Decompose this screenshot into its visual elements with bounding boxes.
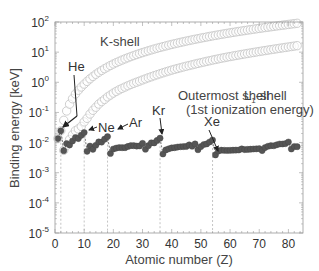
data-point bbox=[293, 41, 301, 49]
x-tick-label: 80 bbox=[282, 237, 296, 251]
outermost-shell-label: Outermost shell bbox=[178, 88, 269, 103]
y-axis-label: Binding energy [keV] bbox=[7, 68, 22, 188]
ne-arrow bbox=[89, 127, 97, 130]
ar-arrow bbox=[118, 124, 128, 129]
kr-annotation: Kr bbox=[152, 103, 166, 118]
x-tick-label: 30 bbox=[136, 237, 150, 251]
data-point bbox=[285, 139, 291, 145]
xe-annotation: Xe bbox=[204, 114, 220, 129]
x-tick-label: 0 bbox=[52, 237, 59, 251]
x-tick-label: 40 bbox=[165, 237, 179, 251]
data-point bbox=[192, 141, 198, 147]
x-tick-label: 60 bbox=[223, 237, 237, 251]
data-point bbox=[294, 144, 300, 150]
y-tick-label: 10-4 bbox=[29, 195, 50, 211]
he-annotation: He bbox=[68, 59, 85, 74]
y-tick-label: 100 bbox=[31, 74, 49, 90]
data-point bbox=[55, 135, 61, 141]
x-tick-label: 50 bbox=[194, 237, 208, 251]
data-point bbox=[58, 128, 64, 134]
data-point bbox=[139, 140, 145, 146]
kr-arrow bbox=[160, 118, 162, 134]
data-point bbox=[157, 135, 163, 141]
k-shell-label: K-shell bbox=[100, 34, 140, 49]
data-point bbox=[81, 129, 87, 135]
y-tick-label: 102 bbox=[31, 14, 49, 30]
data-point bbox=[61, 148, 67, 154]
y-tick-label: 101 bbox=[31, 44, 49, 60]
y-tick-label: 10-5 bbox=[29, 225, 50, 241]
data-point bbox=[60, 116, 68, 124]
x-tick-label: 70 bbox=[253, 237, 267, 251]
y-tick-label: 10-1 bbox=[29, 104, 50, 120]
y-tick-label: 10-2 bbox=[29, 135, 50, 151]
x-tick-label: 10 bbox=[77, 237, 91, 251]
k-shell-series bbox=[54, 19, 302, 143]
ne-annotation: Ne bbox=[98, 120, 115, 135]
x-axis-label: Atomic number (Z) bbox=[125, 252, 233, 267]
y-tick-label: 10-3 bbox=[29, 165, 50, 181]
binding-energy-chart: 0102030405060708010-510-410-310-210-1100… bbox=[0, 0, 319, 271]
ar-annotation: Ar bbox=[129, 115, 143, 130]
outermost-shell-series bbox=[55, 128, 300, 158]
x-tick-label: 20 bbox=[107, 237, 121, 251]
